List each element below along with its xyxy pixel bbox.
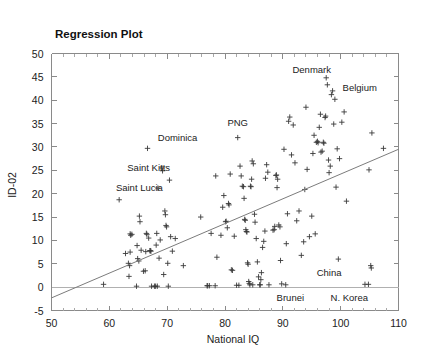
y-tick-label: 30 [32, 141, 44, 153]
y-tick-label: 35 [32, 118, 44, 130]
y-axis-title: ID-02 [6, 172, 18, 198]
annotation-label: PNG [227, 117, 248, 128]
y-tick-label: 45 [32, 71, 44, 83]
x-axis-title: National IQ [207, 333, 260, 345]
x-tick-label: 50 [46, 317, 58, 329]
y-tick-label: 40 [32, 94, 44, 106]
y-tick-label: 0 [38, 281, 44, 293]
y-tick-label: 25 [32, 164, 44, 176]
y-tick-label: -5 [34, 305, 43, 317]
annotation-label: Saint Lucia [116, 182, 164, 193]
page-title: Regression Plot [55, 28, 143, 40]
x-tick-label: 60 [103, 317, 115, 329]
y-tick-label: 20 [32, 188, 44, 200]
scatter-plot-canvas: Regression Plot 5060708090100110 -505101… [0, 0, 423, 350]
x-tick-label: 70 [161, 317, 173, 329]
y-tick-label: 10 [32, 234, 44, 246]
annotation-label: Saint Kitts [127, 162, 170, 173]
annotation-label: Belgium [343, 82, 377, 93]
regression-plot-figure: Regression Plot 5060708090100110 -505101… [0, 0, 423, 350]
annotation-label: Denmark [292, 64, 331, 75]
annotation-label: Brunei [277, 292, 304, 303]
annotation-label: China [317, 267, 343, 278]
annotation-label: N. Korea [331, 292, 369, 303]
x-tick-label: 90 [277, 317, 289, 329]
x-tick-label: 110 [390, 317, 407, 329]
y-tick-label: 5 [38, 258, 44, 270]
annotation-label: Dominica [158, 132, 198, 143]
y-tick-label: 50 [32, 48, 44, 60]
x-tick-label: 100 [332, 317, 350, 329]
y-tick-label: 15 [32, 211, 44, 223]
x-tick-label: 80 [219, 317, 231, 329]
